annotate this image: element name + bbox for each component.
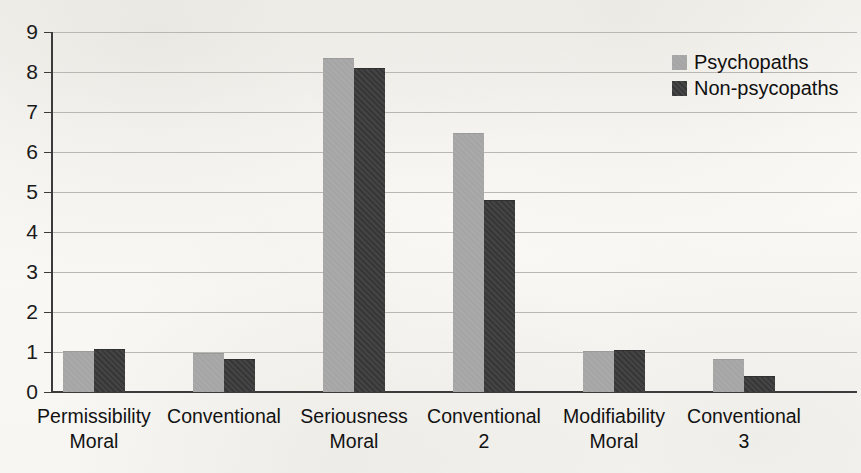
y-axis-label-0: 0 bbox=[0, 381, 38, 402]
x-axis-label-line2-group-4: 2 bbox=[419, 429, 549, 454]
x-axis-label-group-6: Conventional3 bbox=[679, 404, 809, 454]
bar-non-psycopaths-group-6 bbox=[744, 376, 775, 392]
x-axis-label-line1-group-5: Modifiability bbox=[563, 405, 665, 427]
y-axis-label-1: 1 bbox=[0, 341, 38, 362]
dark-gray-swatch-icon bbox=[672, 81, 687, 96]
gridline-9 bbox=[51, 32, 857, 33]
y-axis-label-5: 5 bbox=[0, 181, 38, 202]
x-axis-label-line2-group-1: Moral bbox=[29, 429, 159, 454]
legend-label-psychopaths: Psychopaths bbox=[694, 51, 809, 74]
bar-psychopaths-group-2 bbox=[193, 353, 224, 392]
bar-psychopaths-group-6 bbox=[713, 359, 744, 392]
bar-non-psycopaths-group-1 bbox=[94, 349, 125, 392]
x-axis-label-line2-group-5: Moral bbox=[549, 429, 679, 454]
x-axis-label-line1-group-6: Conventional bbox=[687, 405, 801, 427]
x-axis-label-line2-group-3: Moral bbox=[289, 429, 419, 454]
bar-psychopaths-group-5 bbox=[583, 351, 614, 392]
bar-psychopaths-group-4 bbox=[453, 133, 484, 392]
x-axis-label-line1-group-4: Conventional bbox=[427, 405, 541, 427]
bar-chart-plot-area: 0123456789 PermissibilityMoralConvention… bbox=[0, 0, 861, 473]
bar-non-psycopaths-group-4 bbox=[484, 200, 515, 392]
x-axis-label-group-1: PermissibilityMoral bbox=[29, 404, 159, 454]
bar-non-psycopaths-group-5 bbox=[614, 350, 645, 392]
bar-psychopaths-group-3 bbox=[323, 58, 354, 392]
x-axis-label-line1-group-2: Conventional bbox=[167, 405, 281, 427]
x-axis-label-line2-group-6: 3 bbox=[679, 429, 809, 454]
y-axis-label-8: 8 bbox=[0, 61, 38, 82]
x-axis-label-group-4: Conventional2 bbox=[419, 404, 549, 454]
gridline-7 bbox=[51, 112, 857, 113]
legend-entry-psychopaths: Psychopaths bbox=[672, 49, 839, 75]
x-axis-label-line1-group-1: Permissibility bbox=[37, 405, 151, 427]
x-axis-label-group-3: SeriousnessMoral bbox=[289, 404, 419, 454]
light-gray-swatch-icon bbox=[672, 55, 687, 70]
y-axis-label-6: 6 bbox=[0, 141, 38, 162]
y-axis-label-9: 9 bbox=[0, 21, 38, 42]
bar-non-psycopaths-group-3 bbox=[354, 68, 385, 392]
chart-legend: Psychopaths Non-psycopaths bbox=[672, 49, 839, 101]
chart-page: 0123456789 PermissibilityMoralConvention… bbox=[0, 0, 861, 473]
y-axis-label-7: 7 bbox=[0, 101, 38, 122]
y-axis-label-3: 3 bbox=[0, 261, 38, 282]
bar-psychopaths-group-1 bbox=[63, 351, 94, 392]
y-axis-label-2: 2 bbox=[0, 301, 38, 322]
bar-non-psycopaths-group-2 bbox=[224, 359, 255, 392]
legend-entry-non-psycopaths: Non-psycopaths bbox=[672, 75, 839, 101]
x-axis-label-group-2: Conventional bbox=[159, 404, 289, 429]
y-axis-label-4: 4 bbox=[0, 221, 38, 242]
x-axis-label-line1-group-3: Seriousness bbox=[300, 405, 407, 427]
x-axis-label-group-5: ModifiabilityMoral bbox=[549, 404, 679, 454]
y-axis-line bbox=[51, 32, 53, 392]
legend-label-non-psycopaths: Non-psycopaths bbox=[694, 77, 839, 100]
